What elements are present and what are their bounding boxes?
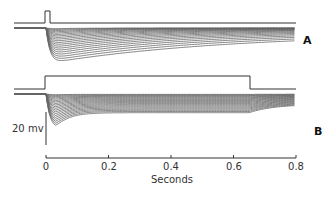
panel-a-label: A	[303, 34, 312, 47]
panel-a-traces	[14, 28, 294, 61]
x-axis	[46, 155, 296, 158]
panel-b-label: B	[314, 125, 322, 138]
panel-b-traces	[14, 94, 294, 125]
panel-b-stimulus	[14, 76, 296, 89]
x-tick-label: 0.6	[226, 161, 242, 172]
x-tick-label: 0.4	[163, 161, 179, 172]
scale-bar-label: 20 mv	[12, 123, 44, 134]
x-tick-label: 0.2	[101, 161, 117, 172]
x-tick-label: 0.8	[288, 161, 304, 172]
x-tick-label: 0	[43, 161, 49, 172]
x-axis-title: Seconds	[151, 174, 193, 185]
panel-a-stimulus	[14, 11, 296, 23]
